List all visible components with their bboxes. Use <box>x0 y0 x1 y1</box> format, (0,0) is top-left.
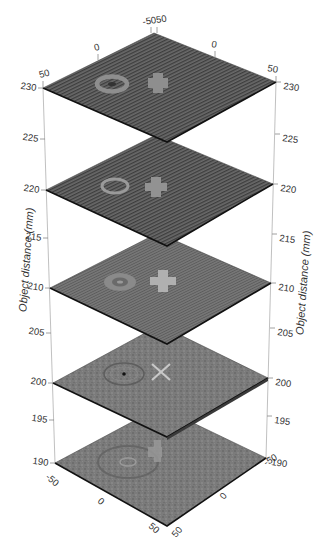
svg-text:220: 220 <box>23 182 40 195</box>
svg-text:0: 0 <box>217 490 229 501</box>
svg-text:220: 220 <box>280 182 297 195</box>
svg-text:-5050: -5050 <box>142 13 168 27</box>
right-axis-title: Object distance (mm) <box>293 230 312 335</box>
left-axis-title: Object distance (mm) <box>16 207 35 312</box>
svg-text:205: 205 <box>28 325 45 338</box>
svg-text:0: 0 <box>93 41 101 53</box>
svg-text:195: 195 <box>31 412 48 425</box>
svg-text:215: 215 <box>279 232 296 245</box>
svg-text:200: 200 <box>30 375 47 388</box>
right-z-ticks <box>266 82 281 458</box>
dot-feature <box>122 372 126 376</box>
svg-text:190: 190 <box>32 455 49 468</box>
svg-text:225: 225 <box>282 132 299 145</box>
svg-text:205: 205 <box>277 326 294 339</box>
stacked-slices-figure: 230 225 220 215 210 205 200 195 190 230 … <box>0 0 321 549</box>
slice-230 <box>43 33 276 142</box>
svg-text:50: 50 <box>267 62 279 75</box>
svg-text:50: 50 <box>169 524 184 539</box>
slice-200 <box>53 325 268 440</box>
svg-text:195: 195 <box>274 414 291 427</box>
svg-text:0: 0 <box>96 495 107 507</box>
svg-text:230: 230 <box>20 80 37 93</box>
svg-text:50: 50 <box>38 67 51 80</box>
svg-text:225: 225 <box>22 131 39 144</box>
slice-220 <box>46 135 273 246</box>
svg-text:200: 200 <box>275 376 292 389</box>
svg-text:210: 210 <box>278 281 295 294</box>
slice-210 <box>50 233 271 344</box>
left-vertical-edge <box>43 88 55 463</box>
svg-text:-50: -50 <box>44 471 62 488</box>
right-z-labels: 230 225 220 215 210 205 200 195 190 <box>271 80 300 469</box>
svg-text:230: 230 <box>283 80 300 93</box>
left-z-ticks <box>38 88 55 463</box>
right-vertical-edge <box>266 82 276 458</box>
svg-text:0: 0 <box>211 38 218 50</box>
